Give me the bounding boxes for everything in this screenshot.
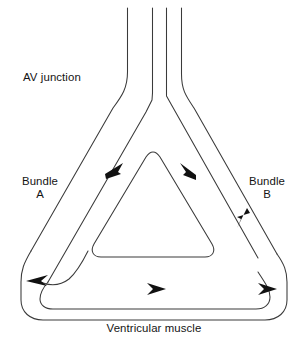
trunk-line-inner-right bbox=[167, 8, 259, 258]
arrow-antegrade-right-icon bbox=[180, 163, 196, 180]
bundle-a-terminal-curl bbox=[40, 251, 88, 285]
reentry-circuit-diagram: AV junction Bundle A Bundle B Ventricula… bbox=[0, 0, 308, 352]
trunk-line-outer-left bbox=[31, 8, 128, 251]
label-bundle-a: Bundle A bbox=[9, 175, 71, 202]
arrow-ventricular-exit-icon bbox=[258, 283, 277, 295]
arrow-ventricular-conduction-icon bbox=[147, 283, 166, 295]
arrow-left-turnaround-icon bbox=[26, 275, 48, 286]
trunk-line-inner-left bbox=[48, 8, 153, 282]
arrow-antegrade-left-icon bbox=[105, 163, 123, 179]
label-ventricular-muscle: Ventricular muscle bbox=[60, 322, 248, 335]
inner-triangular-loop bbox=[92, 152, 214, 257]
label-av-junction: AV junction bbox=[23, 71, 81, 84]
label-bundle-b: Bundle B bbox=[236, 175, 298, 202]
